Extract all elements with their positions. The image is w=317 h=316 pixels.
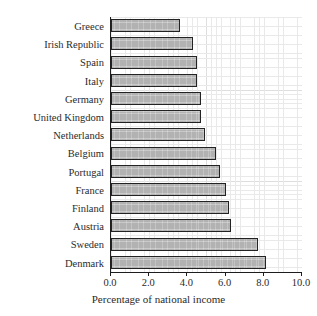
x-axis-tick-label: 6.0 — [205, 277, 245, 288]
y-axis-label: Denmark — [0, 258, 104, 269]
x-axis-tick-label: 0.0 — [90, 277, 130, 288]
bar — [111, 147, 216, 160]
y-axis-label: Greece — [0, 21, 104, 32]
bar — [111, 183, 226, 196]
bar-row — [111, 254, 302, 272]
x-axis-tick — [110, 272, 111, 276]
y-axis-label: Sweden — [0, 239, 104, 250]
bar — [111, 128, 205, 141]
bar — [111, 74, 197, 87]
y-axis-label: Austria — [0, 221, 104, 232]
bar-row — [111, 235, 302, 253]
x-axis-tick — [225, 272, 226, 276]
bar-row — [111, 72, 302, 90]
bar — [111, 165, 220, 178]
bar-chart: GreeceIrish RepublicSpainItalyGermanyUni… — [0, 0, 317, 316]
y-axis-label: Irish Republic — [0, 39, 104, 50]
y-axis-label: Germany — [0, 94, 104, 105]
bar — [111, 201, 229, 214]
x-axis-title: Percentage of national income — [0, 293, 317, 305]
y-axis-label: United Kingdom — [0, 112, 104, 123]
bar-row — [111, 90, 302, 108]
plot-area — [110, 17, 302, 272]
bar — [111, 19, 180, 32]
bar-row — [111, 35, 302, 53]
x-axis-tick-label: 8.0 — [243, 277, 283, 288]
bar-row — [111, 126, 302, 144]
bar — [111, 37, 193, 50]
bar-row — [111, 53, 302, 71]
x-axis-tick-label: 10.0 — [281, 277, 317, 288]
bar-row — [111, 17, 302, 35]
bar — [111, 238, 258, 251]
x-axis-tick-label: 2.0 — [128, 277, 168, 288]
x-axis-tick-label: 4.0 — [166, 277, 206, 288]
bar-row — [111, 181, 302, 199]
y-axis-category-labels: GreeceIrish RepublicSpainItalyGermanyUni… — [0, 17, 104, 272]
y-axis-label: Netherlands — [0, 130, 104, 141]
bar — [111, 110, 201, 123]
bar — [111, 92, 201, 105]
bar — [111, 219, 231, 232]
y-axis-label: Portugal — [0, 167, 104, 178]
bar-row — [111, 163, 302, 181]
x-axis-line — [110, 272, 301, 273]
y-axis-label: France — [0, 185, 104, 196]
bar-row — [111, 199, 302, 217]
x-axis-tick — [263, 272, 264, 276]
x-axis-tick — [148, 272, 149, 276]
y-axis-label: Italy — [0, 76, 104, 87]
bar-row — [111, 108, 302, 126]
bar-row — [111, 217, 302, 235]
bar — [111, 256, 266, 269]
bar-series — [111, 17, 302, 272]
bar-row — [111, 144, 302, 162]
y-axis-label: Spain — [0, 57, 104, 68]
y-axis-label: Finland — [0, 203, 104, 214]
bar — [111, 56, 197, 69]
y-axis-label: Belgium — [0, 148, 104, 159]
x-axis-tick — [301, 272, 302, 276]
x-axis-tick — [186, 272, 187, 276]
